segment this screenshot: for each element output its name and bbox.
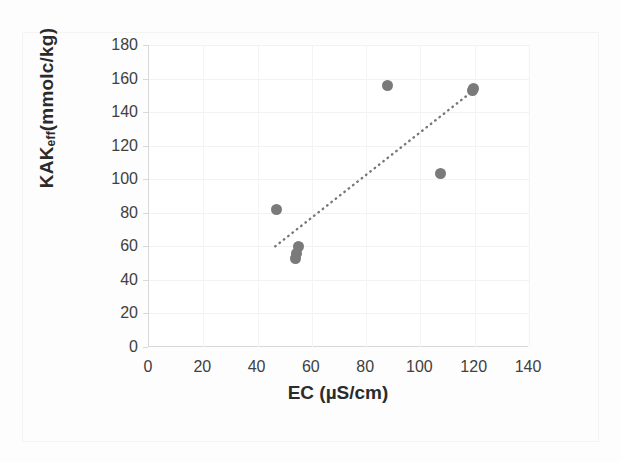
gridline-horizontal [149,112,529,113]
gridline-vertical [258,45,259,347]
gridline-horizontal [149,280,529,281]
gridline-horizontal [149,45,529,46]
gridline-horizontal [149,213,529,214]
data-point [468,83,479,94]
y-axis-title-units: (mmolc/kg) [36,28,58,131]
gridline-vertical [312,45,313,347]
y-tick-label: 80 [92,205,138,221]
x-tick-label: 140 [503,359,553,375]
y-axis-title-subscript: eff [44,131,58,146]
x-tick-label: 60 [286,359,336,375]
gridline-horizontal [149,179,529,180]
gridline-horizontal [149,313,529,314]
y-tick-label: 40 [92,272,138,288]
x-tick-label: 120 [449,359,499,375]
x-tick-label: 80 [340,359,390,375]
data-point [382,80,393,91]
gridline-vertical [366,45,367,347]
y-tick-label: 140 [92,104,138,120]
y-tick-label: 120 [92,138,138,154]
y-axis-title-main: KAK [36,146,58,188]
x-tick-label: 0 [123,359,173,375]
gridline-horizontal [149,146,529,147]
y-tick-label: 180 [92,37,138,53]
chart-figure: KAKeff (mmolc/kg) EC (µS/cm) 02040608010… [0,0,621,462]
gridline-vertical [529,45,530,347]
data-point [293,241,304,252]
y-tick-label: 20 [92,305,138,321]
plot-area [148,45,528,347]
gridline-vertical [203,45,204,347]
y-tick-label: 60 [92,238,138,254]
x-tick-label: 40 [232,359,282,375]
y-axis-title: KAKeff (mmolc/kg) [29,0,65,243]
gridline-horizontal [149,246,529,247]
y-tick-label: 160 [92,71,138,87]
y-tick-label: 0 [92,339,138,355]
y-tick-mark [143,347,148,348]
x-axis-title: EC (µS/cm) [148,382,528,404]
x-tick-label: 20 [177,359,227,375]
gridline-vertical [420,45,421,347]
gridline-horizontal [149,79,529,80]
y-tick-label: 100 [92,171,138,187]
data-point [271,204,282,215]
data-point [435,168,446,179]
x-tick-label: 100 [394,359,444,375]
